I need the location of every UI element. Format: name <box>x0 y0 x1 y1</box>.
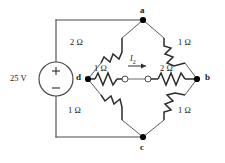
source-value-label: 25 V <box>10 74 27 83</box>
resistor-center-b-zigzag <box>158 73 185 85</box>
resistor-d-center-zigzag <box>95 73 117 85</box>
node-dot-b <box>194 76 200 82</box>
current-subscript: 2 <box>133 59 136 65</box>
node-label-a: a <box>140 6 145 15</box>
circuit-diagram: 25 V a b c d 2 Ω 1 Ω 1 Ω 2 Ω 1 Ω 1 Ω I2 <box>0 0 225 163</box>
resistor-d-c-zigzag <box>101 95 122 120</box>
resistor-a-b-label: 1 Ω <box>178 38 191 47</box>
open-terminal-left-icon[interactable] <box>122 76 128 82</box>
lead-r5-to-c <box>122 120 143 137</box>
lead-a-to-r2 <box>143 20 164 38</box>
resistor-center-b-label: 2 Ω <box>160 64 173 73</box>
circuit-schematic-svg <box>0 0 225 163</box>
node-label-c: c <box>140 143 144 152</box>
node-dot-d <box>85 76 91 82</box>
resistor-d-a-label: 2 Ω <box>70 38 83 47</box>
lead-c-to-r6 <box>143 120 164 137</box>
resistor-d-c-label: 1 Ω <box>68 106 81 115</box>
lead-r1-to-a <box>122 20 143 38</box>
resistor-d-a-zigzag <box>101 38 122 63</box>
junction-dots <box>85 17 200 140</box>
node-dot-c <box>140 134 146 140</box>
resistor-d-center-label: 1 Ω <box>94 64 107 73</box>
node-label-d: d <box>76 73 81 82</box>
node-label-b: b <box>205 73 210 82</box>
resistor-c-b-label: 1 Ω <box>178 106 191 115</box>
node-dot-a <box>140 17 146 23</box>
open-terminal-right-icon[interactable] <box>145 76 151 82</box>
current-label-i2: I2 <box>130 55 136 65</box>
